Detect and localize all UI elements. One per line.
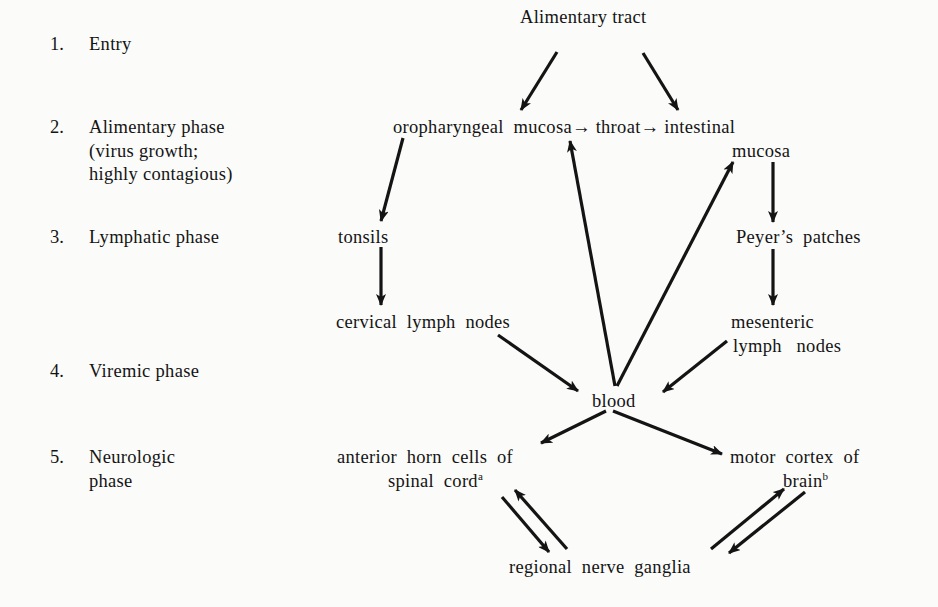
arrow-blood-to-oropharyngeal: [570, 141, 615, 386]
arrow-tract-to-oropharyngeal: [521, 52, 557, 110]
arrow-tract-to-intestinal: [643, 53, 678, 110]
arrow-spinal-to-ganglia: [502, 497, 549, 552]
arrow-mesenteric-to-blood: [663, 341, 727, 392]
arrow-oropharyngeal-to-tonsils: [381, 138, 403, 221]
arrow-blood-to-motor-cortex: [613, 411, 722, 454]
arrow-blood-to-anterior-horn: [541, 411, 606, 443]
arrow-blood-to-intestinal: [617, 162, 733, 386]
arrow-cervical-to-blood: [498, 335, 578, 391]
arrow-layer: [0, 0, 938, 607]
